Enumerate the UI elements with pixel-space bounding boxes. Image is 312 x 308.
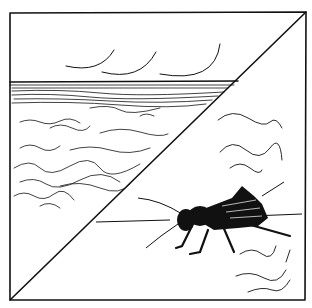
diagonal-divider <box>10 12 306 300</box>
illustration: Hand-drawn ink illustration in a square … <box>0 0 312 308</box>
sky-curves <box>66 44 220 76</box>
sea-waves <box>10 81 238 208</box>
illustration-drawing <box>0 0 312 308</box>
cricket <box>96 182 302 254</box>
